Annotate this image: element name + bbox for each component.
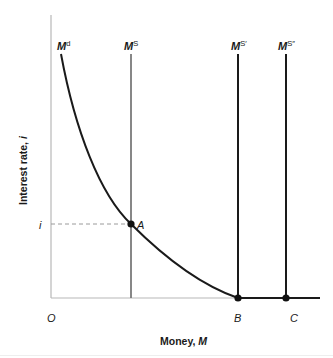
point-b-marker — [234, 294, 241, 301]
interest-rate-tick-label: i — [39, 219, 42, 231]
bottom-divider — [0, 355, 333, 356]
point-c-label: C — [290, 312, 298, 324]
point-a-marker — [127, 220, 134, 227]
x-axis-title: Money, M — [160, 335, 207, 347]
money-supply-prime-label: MS′ — [231, 39, 247, 52]
y-axis-title: Interest rate, i — [17, 135, 29, 205]
money-demand-label: Md — [57, 39, 70, 52]
point-c-marker — [282, 294, 289, 301]
money-demand-curve — [61, 54, 238, 298]
money-supply-label: MS — [124, 39, 138, 52]
money-supply-double-prime-label: MS″ — [278, 39, 295, 52]
point-a-label: A — [136, 219, 144, 231]
origin-label: O — [47, 312, 56, 324]
money-market-diagram: Md MS MS′ MS″ A i O B C Money, M Interes… — [0, 0, 333, 358]
point-b-label: B — [234, 312, 241, 324]
